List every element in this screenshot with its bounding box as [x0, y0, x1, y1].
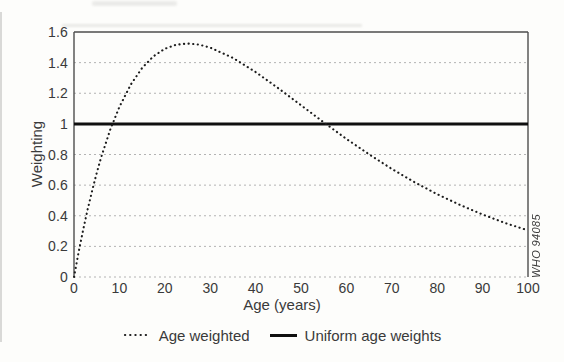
age-weighted-curve [74, 44, 528, 278]
x-tick-label: 10 [112, 281, 128, 295]
who-reference-number: WHO 94085 [530, 206, 544, 278]
legend: Age weighted Uniform age weights [0, 326, 564, 344]
y-axis-title: Weighting [28, 79, 46, 229]
x-tick-label: 90 [475, 281, 491, 295]
solid-line-icon [270, 334, 297, 337]
x-tick-label: 60 [339, 281, 355, 295]
x-tick-label: 40 [248, 281, 264, 295]
x-tick-label: 100 [516, 281, 539, 295]
y-tick-label: 1.6 [30, 25, 68, 39]
legend-label-uniform-age-weights: Uniform age weights [305, 327, 442, 344]
x-tick-label: 30 [202, 281, 218, 295]
legend-label-age-weighted: Age weighted [159, 327, 250, 344]
x-tick-label: 20 [157, 281, 173, 295]
y-tick-label: 0.2 [30, 239, 68, 253]
x-tick-label: 80 [429, 281, 445, 295]
y-tick-label: 0 [30, 270, 68, 284]
x-tick-label: 70 [384, 281, 400, 295]
age-weighting-chart: 00.20.40.60.811.21.41.6 0102030405060708… [0, 0, 564, 362]
x-tick-label: 50 [293, 281, 309, 295]
dotted-line-icon [123, 332, 151, 338]
x-tick-label: 0 [70, 281, 78, 295]
y-tick-label: 1.4 [30, 56, 68, 70]
x-axis-title: Age (years) [0, 296, 564, 313]
